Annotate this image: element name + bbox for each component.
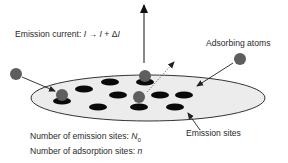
num-emission-sites-text: Number of emission sites:: [30, 131, 131, 141]
free-atom-right: [234, 53, 246, 65]
arrow-symbol: →: [86, 29, 99, 39]
label-emission-current: Emission current: I → I + ΔI: [15, 29, 120, 39]
symbol-n: n: [137, 146, 142, 156]
label-num-emission-sites: Number of emission sites: N0: [30, 131, 141, 145]
emission-current-text: Emission current:: [15, 29, 84, 39]
symbol-I: I: [117, 29, 119, 39]
subscript-0: 0: [137, 137, 140, 143]
plus-delta-symbol: + Δ: [102, 29, 118, 39]
label-num-adsorption-sites: Number of adsorption sites: n: [30, 146, 142, 156]
arrow-left-atom: [22, 77, 55, 91]
free-atom-left: [10, 68, 22, 80]
num-adsorption-sites-text: Number of adsorption sites:: [30, 146, 137, 156]
label-emission-sites: Emission sites: [186, 128, 241, 138]
label-adsorbing-atoms: Adsorbing atoms: [206, 38, 271, 48]
